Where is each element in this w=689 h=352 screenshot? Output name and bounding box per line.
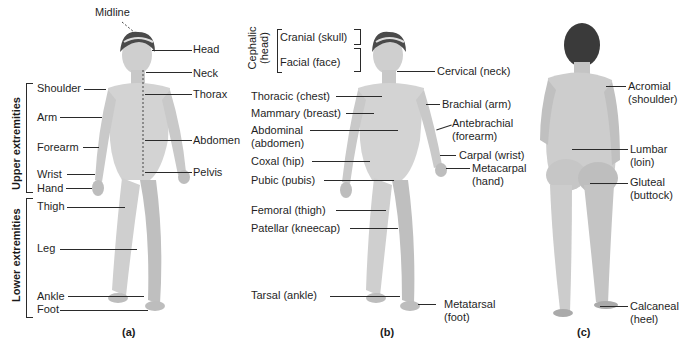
label-gluteal-sub: (buttock): [630, 189, 673, 202]
label-calcaneal-sub: (heel): [630, 313, 658, 326]
leader-line: [606, 86, 626, 87]
label-lumbar: Lumbar: [630, 143, 667, 156]
leader-line: [590, 183, 628, 184]
leader-line: [600, 306, 628, 307]
label-acromial: Acromial: [628, 80, 671, 93]
leader-line: [572, 149, 628, 150]
figure-c-body: [0, 0, 689, 352]
label-lumbar-sub: (loin): [630, 156, 654, 169]
caption-c: (c): [577, 326, 590, 338]
label-acromial-sub: (shoulder): [628, 93, 678, 106]
label-gluteal: Gluteal: [630, 176, 665, 189]
label-calcaneal: Calcaneal: [630, 300, 679, 313]
